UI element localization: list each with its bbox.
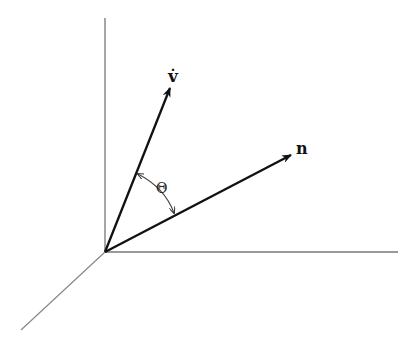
n-label: n: [296, 139, 308, 158]
depth-axis: [21, 252, 105, 330]
n-vector-arrow: [105, 155, 291, 252]
theta-label: Θ: [156, 180, 167, 196]
v-vector-arrow: [105, 88, 170, 252]
v-dot-label: v̇: [167, 66, 179, 86]
vector-diagram: v̇ n Θ: [0, 0, 416, 341]
